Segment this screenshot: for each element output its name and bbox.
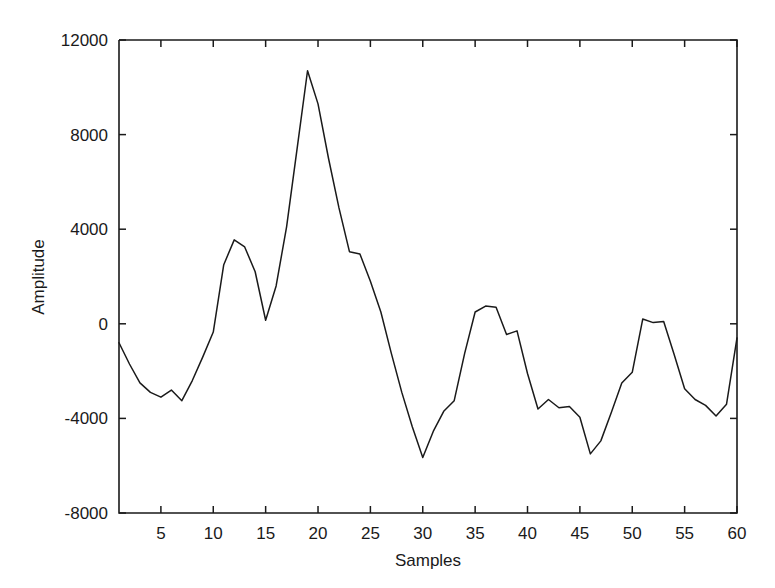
y-tick-label: 0 bbox=[99, 315, 108, 334]
y-tick-label: 4000 bbox=[70, 220, 108, 239]
data-series-line bbox=[119, 71, 737, 458]
x-tick-label: 25 bbox=[361, 524, 380, 543]
x-tick-label: 55 bbox=[675, 524, 694, 543]
x-tick-label: 45 bbox=[570, 524, 589, 543]
x-tick-label: 35 bbox=[466, 524, 485, 543]
x-axis-ticks: 51015202530354045505560 bbox=[156, 40, 746, 543]
x-tick-label: 5 bbox=[156, 524, 165, 543]
x-tick-label: 30 bbox=[413, 524, 432, 543]
axis-box bbox=[119, 40, 737, 513]
plot-axes bbox=[119, 40, 737, 513]
data-series-group bbox=[119, 71, 737, 458]
x-axis-title: Samples bbox=[395, 551, 461, 570]
y-tick-label: -4000 bbox=[65, 409, 108, 428]
y-tick-label: 8000 bbox=[70, 126, 108, 145]
x-tick-label: 10 bbox=[204, 524, 223, 543]
x-tick-label: 50 bbox=[623, 524, 642, 543]
y-tick-label: 12000 bbox=[61, 31, 108, 50]
x-tick-label: 60 bbox=[728, 524, 747, 543]
x-tick-label: 15 bbox=[256, 524, 275, 543]
y-axis-ticks: -8000-400004000800012000 bbox=[61, 31, 737, 523]
line-chart: 51015202530354045505560 -8000-4000040008… bbox=[0, 0, 775, 588]
chart-figure: 51015202530354045505560 -8000-4000040008… bbox=[0, 0, 775, 588]
x-tick-label: 40 bbox=[518, 524, 537, 543]
y-tick-label: -8000 bbox=[65, 504, 108, 523]
y-axis-title: Amplitude bbox=[29, 239, 48, 315]
x-tick-label: 20 bbox=[309, 524, 328, 543]
